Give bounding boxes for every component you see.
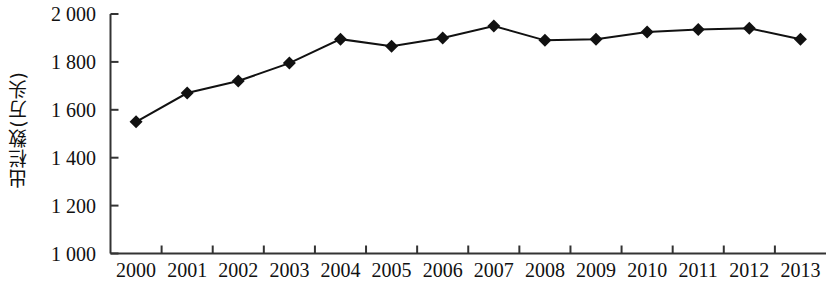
x-axis-tick-label: 2006 bbox=[423, 258, 463, 282]
data-point-marker bbox=[181, 87, 194, 100]
x-axis-tick-label: 2008 bbox=[525, 258, 565, 282]
x-axis-tick-label: 2011 bbox=[679, 258, 718, 282]
data-point-marker bbox=[794, 33, 807, 46]
x-axis-tick-label: 2005 bbox=[372, 258, 412, 282]
data-point-marker bbox=[334, 33, 347, 46]
x-axis-tick-label: 2001 bbox=[167, 258, 207, 282]
data-point-marker bbox=[692, 23, 705, 36]
data-point-marker bbox=[385, 40, 398, 53]
x-axis-tick-label: 2000 bbox=[116, 258, 156, 282]
data-point-marker bbox=[130, 115, 143, 128]
x-axis-tick-label: 2007 bbox=[474, 258, 514, 282]
x-axis-tick-label: 2012 bbox=[729, 258, 769, 282]
data-point-marker bbox=[743, 22, 756, 35]
axes bbox=[111, 14, 827, 254]
data-point-marker bbox=[487, 19, 500, 32]
x-axis-tick-label: 2009 bbox=[576, 258, 616, 282]
data-point-marker bbox=[641, 25, 654, 38]
data-point-marker bbox=[590, 33, 603, 46]
x-axis-tick-label: 2010 bbox=[627, 258, 667, 282]
x-axis-tick-label: 2003 bbox=[269, 258, 309, 282]
data-markers bbox=[130, 19, 807, 128]
data-point-marker bbox=[232, 75, 245, 88]
line-chart: 出栏数(万头) 2 0001 8001 6001 4001 2001 000 2… bbox=[0, 0, 832, 285]
data-point-marker bbox=[436, 31, 449, 44]
plot-area bbox=[0, 0, 832, 285]
data-point-marker bbox=[283, 57, 296, 70]
y-axis-ticks bbox=[111, 14, 119, 254]
data-point-marker bbox=[538, 34, 551, 47]
x-axis-ticks bbox=[162, 246, 775, 254]
data-line bbox=[136, 26, 800, 122]
x-axis-tick-label: 2013 bbox=[780, 258, 820, 282]
x-axis-tick-label: 2004 bbox=[320, 258, 360, 282]
x-axis-tick-labels: 2000200120022003200420052006200720082009… bbox=[0, 258, 832, 285]
x-axis-tick-label: 2002 bbox=[218, 258, 258, 282]
